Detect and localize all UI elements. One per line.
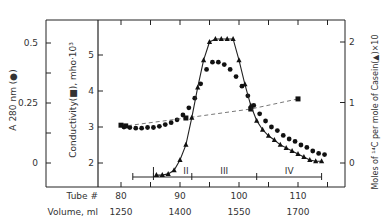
volume-tick-label: 1700 xyxy=(287,207,310,217)
a280-axis-title: A 280 nm (●) xyxy=(8,69,18,130)
right-tick-label: 2 xyxy=(349,37,355,47)
volume-axis-label: Volume, ml xyxy=(48,207,98,217)
fraction-label: IV xyxy=(285,166,295,176)
tube-tick-label: 100 xyxy=(230,191,247,201)
fraction-bar: IIIIIIV xyxy=(133,166,322,180)
right-tick-label: 0 xyxy=(349,158,355,168)
axis-labels: 00.250.523450128090100110125014001550170… xyxy=(8,34,380,217)
fraction-label: III xyxy=(220,166,228,176)
tube-axis-label: Tube # xyxy=(66,191,99,201)
tube-tick-label: 80 xyxy=(115,191,127,201)
conductivity-axis-title: Conductivity(■), mho·10³ xyxy=(68,42,78,158)
volume-tick-label: 1250 xyxy=(110,207,133,217)
conductivity-tick-label: 4 xyxy=(88,86,94,96)
a280-tick-label: 0.5 xyxy=(24,38,38,48)
conductivity-tick-label: 2 xyxy=(88,158,94,168)
a280-tick-label: 0 xyxy=(32,158,38,168)
data-series xyxy=(119,36,327,177)
tube-tick-label: 110 xyxy=(289,191,306,201)
volume-tick-label: 1400 xyxy=(169,207,192,217)
conductivity-tick-label: 5 xyxy=(88,50,94,60)
fraction-label: II xyxy=(183,166,188,176)
conductivity-tick-label: 3 xyxy=(88,122,94,132)
chart: 00.250.523450128090100110125014001550170… xyxy=(0,0,388,224)
tube-tick-label: 90 xyxy=(174,191,186,201)
volume-tick-label: 1550 xyxy=(228,207,251,217)
a280-tick-label: 0.25 xyxy=(18,98,38,108)
right-tick-label: 1 xyxy=(349,98,355,108)
right-axis-title: Moles of ¹⁴C per mole of Casein(▲)×10 xyxy=(371,34,380,189)
